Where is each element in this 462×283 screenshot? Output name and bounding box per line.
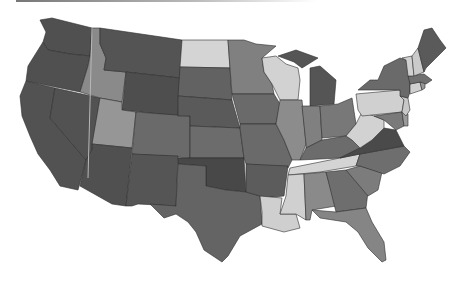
state-maine[interactable] <box>418 28 446 72</box>
state-florida[interactable] <box>312 208 386 262</box>
state-kansas[interactable] <box>190 126 244 158</box>
state-iowa[interactable] <box>232 94 280 124</box>
us-choropleth-map <box>0 0 462 283</box>
state-north-dakota[interactable] <box>180 40 230 68</box>
state-south-dakota[interactable] <box>178 67 232 100</box>
state-pennsylvania[interactable] <box>356 90 404 116</box>
state-arkansas[interactable] <box>246 164 288 198</box>
state-montana[interactable] <box>100 28 182 78</box>
state-wyoming[interactable] <box>122 72 180 116</box>
state-new-mexico[interactable] <box>126 154 178 206</box>
state-colorado[interactable] <box>132 112 190 158</box>
